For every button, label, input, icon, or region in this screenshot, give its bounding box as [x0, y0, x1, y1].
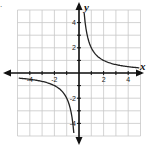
svg-text:4: 4 [72, 19, 76, 26]
svg-text:-2: -2 [51, 76, 57, 83]
svg-text:4: 4 [126, 76, 130, 83]
x-axis-label: x [139, 60, 146, 72]
svg-text:2: 2 [72, 44, 76, 51]
svg-text:2: 2 [102, 76, 106, 83]
coordinate-graph: -4-224-4-224 x y [0, 0, 147, 146]
svg-text:-2: -2 [70, 95, 76, 102]
y-axis-label: y [82, 1, 89, 13]
